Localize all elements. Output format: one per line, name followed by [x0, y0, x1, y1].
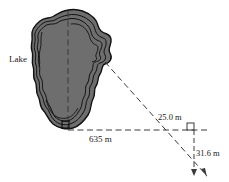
lake-shape-group — [31, 9, 111, 128]
arrowheads-group — [191, 168, 207, 177]
lake-label: Lake — [9, 55, 27, 64]
offset-vertical-label: 31.6 m — [196, 149, 220, 158]
offset-horizontal-label: 25.0 m — [158, 113, 182, 122]
vertical-leg-arrowhead — [191, 169, 197, 176]
figure-canvas — [0, 0, 229, 182]
lake-measurement-figure: Lake 635 m 25.0 m 31.6 m — [0, 0, 229, 182]
right-angle-marker-corner — [187, 123, 194, 130]
baseline-length-label: 635 m — [89, 135, 112, 144]
sight-line-upper — [105, 62, 207, 176]
sight-line-arrowhead — [201, 168, 207, 177]
